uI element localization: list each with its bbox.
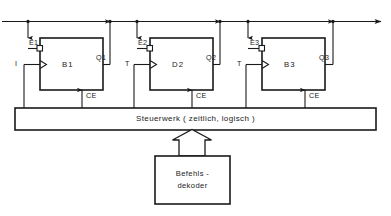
output-label-1: Q1 [96,54,106,61]
block-3-group [246,38,333,105]
output-label-3: Q3 [319,54,329,61]
block-2-group [134,38,220,105]
decoder-label-line1: Befehls - [155,170,230,178]
enable-label-2: E2 [138,39,147,46]
block-label-1: B1 [62,61,74,69]
enable-label-1: E1 [29,39,38,46]
decoder-box [155,156,230,204]
output-to-bus-risers [110,22,333,39]
input-label-3: T [237,60,242,67]
block-label-3: B3 [284,61,296,69]
ce-label-2: CE [196,92,207,99]
block-1-group [24,38,110,105]
diagram-canvas: E1 B1 Q1 CE I E2 D2 Q2 CE T E3 B3 Q3 CE … [0,0,391,216]
block-label-2: D2 [172,61,184,69]
ce-label-3: CE [309,92,320,99]
input-label-2: T [125,60,130,67]
control-unit-label: Steuerwerk ( zeitlich, logisch ) [0,115,391,123]
bus-to-enable-drops [28,22,248,39]
ce-label-1: CE [86,92,97,99]
enable-label-3: E3 [250,39,259,46]
decoder-label-line2: dekoder [155,182,230,190]
input-label-1: I [15,60,17,67]
output-label-2: Q2 [206,54,216,61]
decoder-to-control-arrow [173,130,212,157]
